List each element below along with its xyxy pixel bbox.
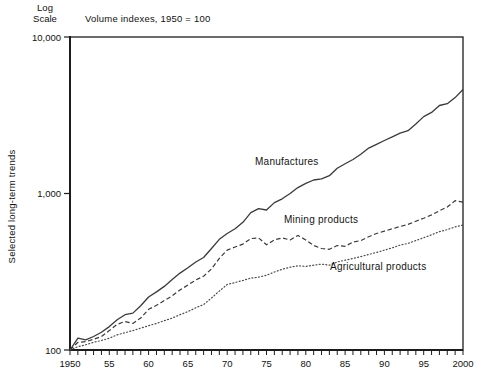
chart-figure: 1950556065707580859095200010,0001,000100… [0,0,486,385]
y-axis-title: Selected long-term trends [6,137,17,277]
y-tick-label: 1,000 [37,188,61,199]
x-tick-label: 2000 [452,358,473,369]
x-tick-label: 55 [104,358,115,369]
x-tick-label: 60 [143,358,154,369]
series-line-manufactures [70,90,463,351]
series-label-agricultural-products: Agricultural products [330,261,426,272]
y-tick-label: 10,000 [32,32,61,43]
x-tick-label: 80 [301,358,312,369]
x-tick-label: 70 [222,358,233,369]
log-scale-label: Log Scale [26,2,64,24]
series-label-mining-products: Mining products [284,214,358,225]
chart-title: Volume indexes, 1950 = 100 [85,13,210,24]
x-tick-label: 85 [340,358,351,369]
series-line-mining-products [70,201,463,350]
x-tick-label: 65 [183,358,194,369]
chart-svg: 1950556065707580859095200010,0001,000100 [0,0,486,385]
log-scale-line1: Log [26,2,64,13]
y-tick-label: 100 [45,345,61,356]
x-tick-label: 95 [418,358,429,369]
log-scale-line2: Scale [26,13,64,24]
x-tick-label: 75 [261,358,272,369]
series-label-manufactures: Manufactures [255,156,319,167]
x-tick-label: 90 [379,358,390,369]
plot-frame [70,37,463,350]
x-tick-label: 1950 [59,358,80,369]
series-line-agricultural-products [70,225,463,350]
